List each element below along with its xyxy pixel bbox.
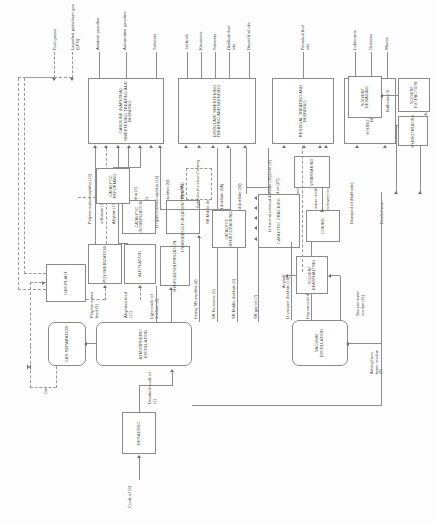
stream-label-raffinate: Raffinate (3) <box>386 90 391 112</box>
arrow-into-hydro-1 <box>355 145 359 148</box>
line-into-atm-dist <box>172 370 173 386</box>
unit-alkylation[interactable]: ALKYLATION <box>124 244 156 284</box>
arrow-asphalt <box>285 274 288 278</box>
line-lcd-feed <box>171 290 172 322</box>
line-poly-feed-v <box>86 299 105 300</box>
arrow-into-distillate-1 <box>184 145 188 148</box>
unit-gasoline-blending-label: GASOLINE (NAPHTHA) SWEETENING TREATING A… <box>119 80 132 142</box>
line-lcd-to-hds <box>156 286 157 322</box>
unit-gas-separation[interactable]: GAS SEPARATION <box>48 322 86 366</box>
product-label-distillate-fuel-oils: Distillate fuel oils <box>226 20 236 50</box>
unit-distillate-blending[interactable]: DISTILLATE SWEETENING TREATING AND BLEND… <box>178 78 256 144</box>
arrow-fuel-gases <box>52 78 56 81</box>
line-automotive-gasoline <box>126 52 127 78</box>
line-fuel-gas-run <box>18 78 19 290</box>
line-kerosene <box>201 52 202 78</box>
line-raffinate-v <box>382 95 398 96</box>
unit-vacuum-distillation[interactable]: VACUUM DISTILLATION <box>292 320 348 366</box>
stream-label-sr-kerosene-2: SR Kerosene (5) <box>212 289 217 319</box>
stream-label-sr-middle-distillate-2: SR Middle distillate (6) <box>232 279 237 319</box>
product-label-kerosene: Kerosene <box>198 6 203 50</box>
line-gas-sep-out <box>56 366 57 388</box>
arrow-into-residual-1 <box>282 145 286 148</box>
stream-label-lt-vacuum-distillate: Lt vacuum distillate (19) <box>286 277 291 319</box>
unit-catalytic-cracking-label: CATALYTIC CRACKING <box>277 198 282 244</box>
unit-visbreaking[interactable]: VISBREAKING <box>294 156 330 188</box>
unit-hydrotreating[interactable]: HYDROTREATING <box>398 116 428 146</box>
line-poly-feed <box>105 288 106 300</box>
line-desalted-crude <box>139 386 140 412</box>
unit-hydrotreating-label: HYDROTREATING <box>411 115 415 148</box>
line-hvy-sr-naphtha <box>199 236 200 322</box>
unit-desalting[interactable]: DESALTING <box>122 412 156 454</box>
stream-label-alkylate: Alkylate (13) <box>112 202 117 224</box>
line-reformate-v <box>113 167 140 168</box>
arrow-into-distillate-2 <box>197 145 201 148</box>
unit-gasoline-blending[interactable]: GASOLINE (NAPHTHA) SWEETENING TREATING A… <box>88 78 164 144</box>
product-label-waxes: Waxes <box>384 6 389 50</box>
unit-coking-label: COKING <box>321 218 325 234</box>
line-alkylate-v <box>118 243 128 244</box>
line-atm-bottom-v <box>192 405 381 406</box>
unit-solvent-dewaxing-label: SOLVENT DEWAXING <box>361 78 370 116</box>
line-jet-fuels <box>187 52 188 78</box>
line-atm-to-gas-sep <box>86 343 96 344</box>
feed-label-crude-oil: Crude oil (0) <box>128 486 133 508</box>
unit-catalytic-reforming[interactable]: CATALYTIC REFORMING <box>96 168 130 204</box>
stream-label-desalted-crude: Desalted crude oil (1) <box>148 370 157 404</box>
unit-polymerization[interactable]: POLYMERIZATION <box>88 244 122 284</box>
unit-atmospheric-distillation[interactable]: ATMOSPHERIC DISTILLATION <box>96 322 192 366</box>
unit-catalytic-cracking[interactable]: CATALYTIC CRACKING <box>258 194 300 248</box>
line-reformate <box>140 148 141 168</box>
stream-label-hvy-sr-naphtha: Heavy SR naphtha (4) <box>194 279 199 319</box>
product-label-lubricants: Lubricants <box>352 6 357 50</box>
unit-catalytic-hydrocracking[interactable]: CATALYTIC HYDROCRACKING <box>212 210 246 248</box>
line-residual-fuel-oils <box>303 52 304 78</box>
arrow-cc-feed-1 <box>254 237 257 241</box>
product-label-fuel-gases: Fuel gases <box>52 2 57 50</box>
arrow-alky-feed <box>138 285 142 288</box>
line-gas-plant-feed <box>30 282 31 346</box>
unit-catalytic-isomerization[interactable]: CATALYTIC ISOMERIZATION <box>122 200 156 234</box>
arrow-lpg <box>70 78 74 81</box>
line-vac-residue-v <box>330 275 340 276</box>
line-atm-residue <box>381 192 382 344</box>
unit-solvent-dewaxing[interactable]: SOLVENT DEWAXING <box>348 76 382 118</box>
stream-label-polymerization-naphtha: Polymerization naphtha (10) <box>88 174 93 224</box>
line-atm-bottom-h <box>381 344 382 406</box>
unit-solvent-deasphalting[interactable]: SOLVENT DEASPHALTING <box>296 256 328 294</box>
line-greases <box>371 52 372 78</box>
unit-coking[interactable]: COKING <box>306 210 340 242</box>
unit-vacuum-distillation-label: VACUUM DISTILLATION <box>315 322 324 364</box>
unit-hydrodesulfurization-treating-label: HYDRODESULFURIZATION/TREATING <box>181 182 185 252</box>
line-reforming-feed <box>78 197 96 198</box>
product-label-residual-fuel-oils: Residual fuel oils <box>300 18 310 50</box>
line-cc-out-v <box>246 187 268 188</box>
line-hydrocracked-naphtha <box>230 148 231 210</box>
line-alky-feed <box>140 288 141 300</box>
refinery-flow-diagram: Fuel gases Liquefied petroleum gas (LPG)… <box>0 0 434 524</box>
line-thermal-dash <box>302 146 303 272</box>
unit-hydrodesulfurization-treating-2[interactable]: Hydrodesulfurization/Treating <box>186 168 212 200</box>
unit-hydrodesulfurization[interactable]: HYDRODESULFURIZATION <box>160 246 190 286</box>
line-lpg-down <box>24 77 72 78</box>
stream-label-light-crude-distillate: Light crude oil distillate (2) <box>150 289 159 319</box>
stream-label-alkylation-feed: Alkylation feed (11) <box>124 290 133 318</box>
unit-solvent-extraction[interactable]: SOLVENT EXTRACTION <box>398 78 430 112</box>
product-label-solvents-gasoline: Solvents <box>152 6 157 50</box>
arrow-lube-feed-2 <box>394 191 398 194</box>
unit-residual-blending-label: RESIDUAL TREATING AND BLENDING <box>299 80 308 142</box>
unit-gas-plant[interactable]: GAS PLANT <box>46 264 86 302</box>
line-coking-to-vis <box>322 188 323 210</box>
unit-residual-blending[interactable]: RESIDUAL TREATING AND BLENDING <box>272 78 334 144</box>
arrow-vac-residue <box>328 274 331 278</box>
product-label-diesel-fuel-oils: Diesel fuel oils <box>246 20 251 50</box>
arrow-into-gas-plant <box>42 281 45 285</box>
line-solvents-gasoline <box>156 52 157 78</box>
line-lubricants <box>355 52 356 78</box>
arrow-into-hydro-2 <box>383 145 387 148</box>
arrow-lube-feed <box>418 191 422 194</box>
diagram-canvas: Fuel gases Liquefied petroleum gas (LPG)… <box>0 0 434 524</box>
arrow-cc-feed-3 <box>254 216 257 220</box>
unit-hydrodesulfurization-treating[interactable]: HYDRODESULFURIZATION/TREATING <box>166 200 200 234</box>
